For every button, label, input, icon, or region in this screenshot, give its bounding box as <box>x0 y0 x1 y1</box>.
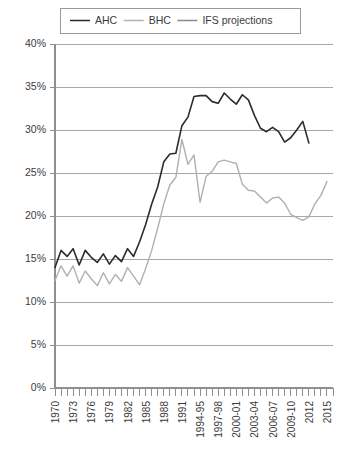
legend-label-bhc: BHC <box>149 14 172 26</box>
x-tick-label: 2000-01 <box>231 401 242 438</box>
y-tick-label: 10% <box>25 295 46 307</box>
x-tick-label: 2003-04 <box>249 401 260 438</box>
x-tick-label: 1979 <box>104 401 115 424</box>
x-tick-label: 2012 <box>304 401 315 424</box>
series-line-ahc <box>55 93 309 268</box>
x-tick-label: 1994-95 <box>195 401 206 438</box>
y-tick-label: 0% <box>31 381 46 393</box>
y-tick-label: 5% <box>31 338 46 350</box>
series-line-bhc <box>55 139 327 285</box>
legend-label-ahc: AHC <box>95 14 118 26</box>
y-tick-label: 40% <box>25 37 46 49</box>
y-tick-label: 30% <box>25 123 46 135</box>
gridlines <box>55 44 333 388</box>
x-tick-label: 1982 <box>123 401 134 424</box>
x-tick-label: 2009-10 <box>286 401 297 438</box>
y-axis: 0%5%10%15%20%25%30%35%40% <box>25 37 55 393</box>
x-tick-label: 2015 <box>322 401 333 424</box>
y-tick-label: 25% <box>25 166 46 178</box>
chart-legend: AHCBHCIFS projections <box>60 8 301 33</box>
y-tick-label: 20% <box>25 209 46 221</box>
chart-container: 0%5%10%15%20%25%30%35%40% 19701973197619… <box>0 0 345 456</box>
x-axis: 197019731976197919821985198819911994-951… <box>50 388 333 438</box>
legend-label-ifs-projections: IFS projections <box>202 14 272 26</box>
x-tick-label: 1985 <box>141 401 152 424</box>
y-tick-label: 15% <box>25 252 46 264</box>
line-chart: 0%5%10%15%20%25%30%35%40% 19701973197619… <box>0 0 345 456</box>
x-tick-label: 1997-98 <box>213 401 224 438</box>
x-tick-label: 1976 <box>86 401 97 424</box>
series-lines <box>55 93 327 286</box>
x-tick-label: 1970 <box>50 401 61 424</box>
y-tick-label: 35% <box>25 80 46 92</box>
x-tick-label: 2006-07 <box>268 401 279 438</box>
x-tick-label: 1973 <box>68 401 79 424</box>
x-tick-label: 1988 <box>159 401 170 424</box>
x-tick-label: 1991 <box>177 401 188 424</box>
